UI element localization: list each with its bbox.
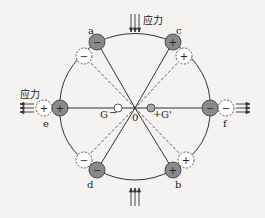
sign-a: − (93, 37, 101, 48)
displaced-sign-b: + (182, 155, 190, 166)
stress-label-left: 应力 (20, 88, 40, 100)
stress-arrow-top-icon (130, 14, 141, 32)
displaced-sign-e: + (40, 103, 48, 114)
g-prime-label: G' (161, 109, 172, 120)
label-a: a (88, 25, 94, 36)
stress-arrow-left-icon (20, 103, 34, 114)
stress-arrow-right-icon (236, 103, 250, 114)
sign-d: − (93, 165, 101, 176)
label-d: d (87, 179, 94, 190)
sign-e: + (56, 103, 64, 114)
g-sign: − (109, 107, 117, 118)
sign-c: + (169, 37, 177, 48)
label-c: c (176, 25, 182, 36)
sign-b: + (169, 165, 177, 176)
label-b: b (175, 179, 181, 190)
displaced-sign-d: − (80, 155, 88, 166)
g-label: G (100, 109, 108, 120)
displaced-sign-a: − (80, 51, 88, 62)
sign-f: − (206, 103, 214, 114)
stress-label-top: 应力 (143, 14, 163, 26)
origin-label: 0 (132, 112, 138, 123)
piezoelectric-diagram: − + + − − + − + + − − + a c e f d b 0 G … (0, 0, 265, 218)
displaced-sign-f: − (222, 103, 230, 114)
label-f: f (223, 118, 228, 129)
label-e: e (43, 118, 49, 129)
displaced-sign-c: + (180, 51, 188, 62)
stress-arrow-bottom-icon (130, 188, 141, 206)
